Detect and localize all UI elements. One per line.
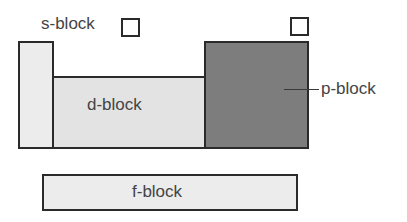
f-block-label: f-block (132, 182, 182, 202)
h-marker-square (121, 18, 140, 37)
p-block-label: p-block (321, 79, 376, 99)
s-block-region (18, 41, 54, 149)
d-block-label: d-block (87, 95, 142, 115)
p-block-region (204, 41, 309, 149)
he-marker-square (290, 17, 309, 36)
s-block-label: s-block (41, 14, 95, 34)
p-block-leader-line (284, 89, 319, 90)
